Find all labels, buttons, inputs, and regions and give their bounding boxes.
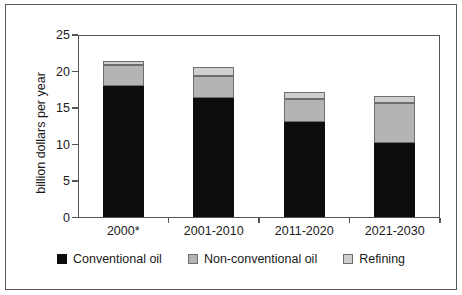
bar-stack <box>103 35 144 218</box>
bar-segment <box>193 98 234 218</box>
bar-stack <box>374 35 415 218</box>
bar-segment <box>193 67 234 76</box>
bar-segment <box>103 65 144 86</box>
y-axis-tick-labels: 0510152025 <box>36 0 70 295</box>
legend-item[interactable]: Refining <box>343 252 405 266</box>
bar-segment <box>193 76 234 98</box>
bar-stack <box>193 35 234 218</box>
bar-segment <box>284 92 325 99</box>
bar-stack <box>284 35 325 218</box>
x-axis-tick-mark <box>349 218 350 223</box>
bar-segment <box>374 143 415 217</box>
legend-label: Non-conventional oil <box>204 252 317 266</box>
legend-swatch-icon <box>188 254 198 264</box>
legend-label: Conventional oil <box>73 252 162 266</box>
x-axis-tick-mark <box>258 218 259 223</box>
y-axis-tick-label: 25 <box>36 28 70 42</box>
bar-segment <box>374 103 415 143</box>
bar-segment <box>284 122 325 218</box>
y-axis-tick-label: 10 <box>36 138 70 152</box>
bar-segment <box>284 99 325 122</box>
legend-swatch-icon <box>343 254 353 264</box>
bar-segment <box>103 86 144 217</box>
chart-legend: Conventional oilNon-conventional oilRefi… <box>0 252 462 266</box>
legend-label: Refining <box>359 252 405 266</box>
x-axis-tick-mark <box>439 218 440 223</box>
y-axis-tick-label: 5 <box>36 174 70 188</box>
legend-item[interactable]: Non-conventional oil <box>188 252 317 266</box>
y-axis-tick-label: 15 <box>36 101 70 115</box>
bar-segment <box>374 96 415 103</box>
y-axis-tick-label: 0 <box>36 211 70 225</box>
bar-segment <box>103 61 144 65</box>
chart-figure: billion dollars per year 0510152025 2000… <box>0 0 462 295</box>
x-axis-tick-mark <box>168 218 169 223</box>
x-axis-tick-label: 2021-2030 <box>340 224 450 238</box>
y-axis-tick-label: 20 <box>36 65 70 79</box>
legend-swatch-icon <box>57 254 67 264</box>
legend-item[interactable]: Conventional oil <box>57 252 162 266</box>
